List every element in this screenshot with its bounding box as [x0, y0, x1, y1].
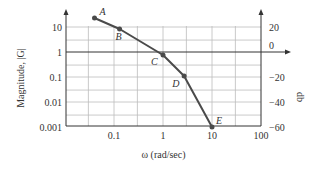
y-tick-label: 10 [52, 22, 62, 33]
y-tick-label: 1 [57, 47, 62, 58]
magnitude-curve: ABCDE [92, 6, 222, 130]
x-tick-label: 10 [207, 130, 217, 141]
point-label-d: D [171, 78, 180, 89]
x-tick-label: 0.1 [108, 130, 121, 141]
data-point-c [161, 52, 166, 57]
data-point-e [210, 125, 215, 130]
y2-tick-label: 20 [269, 22, 279, 33]
y2-tick-label: −20 [269, 72, 285, 83]
y2-tick-label: −40 [269, 97, 285, 108]
magnitude-line [95, 18, 213, 127]
x-tick-label: 100 [254, 130, 269, 141]
axes [64, 9, 292, 126]
data-point-a [92, 15, 97, 20]
y-tick-label: 0.1 [50, 72, 63, 83]
x-axis-label: ω (rad/sec) [141, 149, 185, 161]
bode-magnitude-chart: ABCDE 1010.10.010.0010.1110100200−20−40−… [0, 0, 317, 171]
x-tick-label: 1 [161, 130, 166, 141]
y2-tick-label: 0 [269, 40, 274, 51]
point-label-b: B [116, 31, 122, 42]
right-axis-arrow-icon [259, 9, 264, 15]
zero-db-arrow-icon [285, 50, 291, 55]
y-tick-label: 0.001 [40, 122, 63, 133]
left-axis-arrow-icon [64, 9, 69, 15]
point-label-c: C [151, 56, 158, 67]
data-point-d [182, 73, 187, 78]
y2-axis-label: db [295, 92, 306, 102]
y-axis-label: Magnitude, |G| [15, 48, 26, 108]
point-label-e: E [215, 115, 222, 126]
y-tick-label: 0.01 [45, 97, 63, 108]
point-label-a: A [99, 6, 107, 17]
tick-labels: 1010.10.010.0010.1110100200−20−40−60ω (r… [15, 22, 306, 162]
y2-tick-label: −60 [269, 122, 285, 133]
grid [66, 26, 261, 126]
